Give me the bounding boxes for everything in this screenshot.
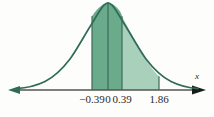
x-axis-arrow-left-icon — [8, 86, 20, 94]
x-axis-arrow-right-icon — [192, 86, 206, 95]
x-axis-label: x — [195, 71, 199, 81]
tick-label-1-86: 1.86 — [145, 93, 173, 105]
tick-label-0-39: 0.39 — [108, 93, 136, 105]
shaded-region-light — [122, 16, 159, 90]
normal-curve-figure: −0.39 0 0.39 1.86 x — [0, 0, 214, 117]
